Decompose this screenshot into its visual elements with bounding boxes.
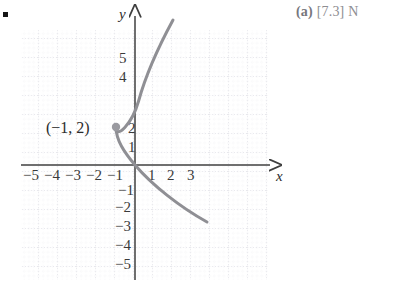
x-tick-label--1: −1 <box>107 167 123 183</box>
x-tick-label--2: −2 <box>86 167 102 183</box>
y-tick-label--3: −3 <box>115 218 131 234</box>
figure-canvas: (a) [7.3] N <box>0 0 393 286</box>
y-tick-label--5: −5 <box>115 256 131 272</box>
x-tick-label--5: −5 <box>23 167 39 183</box>
exercise-reference: (a) [7.3] N <box>296 4 358 20</box>
y-axis-label: y <box>117 6 126 22</box>
x-tick-label--4: −4 <box>44 167 60 183</box>
x-axis-label: x <box>275 168 283 184</box>
y-tick-label--2: −2 <box>115 199 131 215</box>
y-tick-label-1: 1 <box>128 139 136 155</box>
x-tick-label-2: 2 <box>167 167 175 183</box>
plot-svg: x y −5 −4 −3 −2 −1 1 2 3 5 4 2 1 −1 −2 −… <box>0 0 300 286</box>
x-tick-label-3: 3 <box>187 167 195 183</box>
vertex-point-marker <box>112 123 120 131</box>
y-tick-label-4: 4 <box>119 69 127 85</box>
y-tick-label--4: −4 <box>115 237 131 253</box>
grid-background <box>21 30 268 280</box>
x-tick-label--3: −3 <box>65 167 81 183</box>
y-tick-label--1: −1 <box>118 182 134 198</box>
y-tick-label-5: 5 <box>119 50 127 66</box>
coordinate-plot: x y −5 −4 −3 −2 −1 1 2 3 5 4 2 1 −1 −2 −… <box>0 0 300 286</box>
vertex-point-label: (−1, 2) <box>46 119 90 137</box>
exercise-section-text: [7.3] N <box>317 4 359 19</box>
